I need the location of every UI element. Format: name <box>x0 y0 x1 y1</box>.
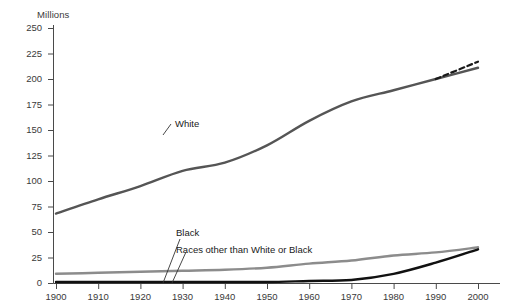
population-line-chart: Millions 2502252001751501251007550250 19… <box>0 0 517 305</box>
x-tick-label: 1950 <box>250 291 284 302</box>
plot-area <box>0 0 517 305</box>
x-tick-label: 1920 <box>123 291 157 302</box>
x-tick-label: 2000 <box>461 291 495 302</box>
y-tick-label: 125 <box>16 150 42 161</box>
x-tick-label: 1960 <box>292 291 326 302</box>
series-line-white <box>56 68 478 214</box>
x-tick-label: 1970 <box>334 291 368 302</box>
y-tick-label: 225 <box>16 48 42 59</box>
y-tick-label: 0 <box>16 277 42 288</box>
x-tick-label: 1990 <box>419 291 453 302</box>
series-label-black: Black <box>176 227 199 238</box>
y-tick-label: 75 <box>16 201 42 212</box>
leader-line-other <box>172 252 186 283</box>
x-tick-label: 1980 <box>377 291 411 302</box>
y-tick-label: 150 <box>16 124 42 135</box>
y-tick-label: 200 <box>16 73 42 84</box>
y-tick-label: 175 <box>16 99 42 110</box>
series-label-other-races: Races other than White or Black <box>176 244 312 255</box>
y-tick-label: 250 <box>16 22 42 33</box>
x-tick-label: 1940 <box>208 291 242 302</box>
y-axis-ticks <box>48 29 54 284</box>
x-tick-label: 1900 <box>39 291 73 302</box>
x-tick-label: 1910 <box>81 291 115 302</box>
annotation-leader-lines <box>163 124 186 283</box>
leader-line-white <box>163 124 171 135</box>
y-tick-label: 50 <box>16 226 42 237</box>
x-axis-ticks <box>57 284 479 290</box>
x-tick-label: 1930 <box>166 291 200 302</box>
series-label-white: White <box>175 118 199 129</box>
y-tick-label: 25 <box>16 252 42 263</box>
y-tick-label: 100 <box>16 175 42 186</box>
